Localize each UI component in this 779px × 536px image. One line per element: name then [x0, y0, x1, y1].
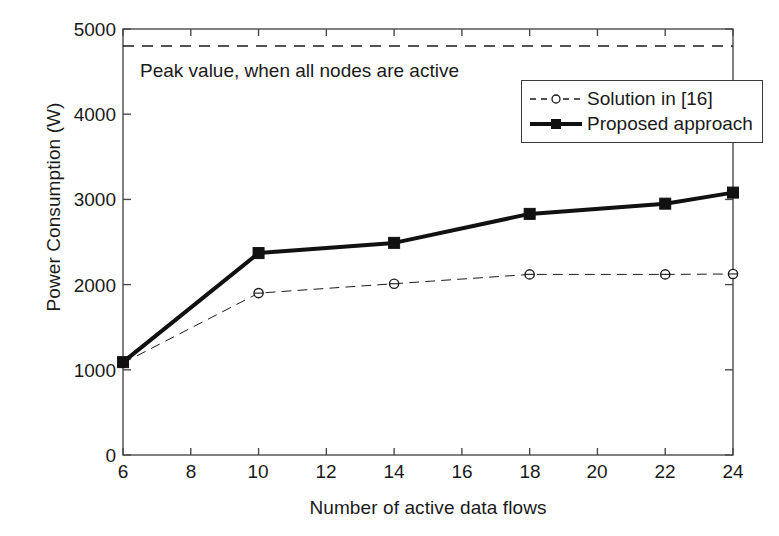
chart-legend: Solution in [16] Proposed approach [521, 80, 763, 143]
legend-item-solution: Solution in [16] [529, 86, 753, 111]
series-line-1 [123, 193, 733, 363]
data-point-1-3 [524, 208, 535, 219]
data-point-1-0 [118, 357, 129, 368]
data-series-layer [118, 187, 739, 368]
legend-sample-dashed-circle [529, 90, 583, 108]
data-point-1-4 [660, 198, 671, 209]
legend-sample-solid-square [529, 115, 583, 133]
legend-label-solution: Solution in [16] [587, 89, 713, 108]
legend-item-proposed: Proposed approach [529, 111, 753, 136]
data-point-1-2 [389, 237, 400, 248]
data-point-1-1 [253, 248, 264, 259]
data-point-1-5 [728, 187, 739, 198]
peak-value-annotation: Peak value, when all nodes are active [140, 60, 459, 82]
power-consumption-chart: Power Consumption (W) 0 1000 2000 3000 4… [0, 0, 779, 536]
legend-label-proposed: Proposed approach [587, 114, 753, 133]
